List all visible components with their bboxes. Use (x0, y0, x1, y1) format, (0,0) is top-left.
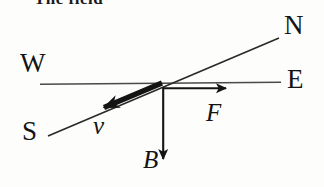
velocity-vector-label: v (93, 113, 104, 138)
force-vector-label: F (206, 100, 221, 125)
compass-label-south: S (22, 118, 37, 145)
compass-label-north: N (284, 12, 304, 39)
compass-label-east: E (287, 66, 304, 93)
compass-label-west: W (20, 50, 45, 77)
vector-diagram-svg (0, 0, 324, 187)
velocity-vector-arrow (104, 83, 162, 108)
field-vector-label: B (143, 147, 158, 172)
figure-canvas: The field W N E S v F B (0, 0, 324, 187)
